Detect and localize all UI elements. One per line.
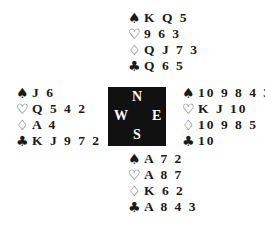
club-icon: ♣ [128,199,144,215]
north-clubs: ♣Q 6 5 [128,58,199,74]
west-spades: ♠J 6 [16,85,101,101]
compass-west: W [114,108,128,124]
spade-icon: ♠ [128,151,144,167]
spade-icon: ♠ [182,85,198,101]
compass-east: E [152,108,161,124]
spade-icon: ♠ [16,85,32,101]
east-clubs: ♣10 [182,133,265,149]
east-hearts: ♡K J 10 [182,101,265,117]
diamond-icon: ♢ [182,117,198,133]
north-hand: ♠K Q 5 ♡9 6 3 ♢Q J 7 3 ♣Q 6 5 [128,10,199,74]
south-clubs: ♣A 8 4 3 [128,199,197,215]
south-diamonds: ♢K 6 2 [128,183,197,199]
compass-north: N [132,89,142,105]
east-diamonds: ♢10 9 8 5 [182,117,265,133]
compass-south: S [133,127,141,143]
south-hand: ♠A 7 2 ♡A 8 7 ♢K 6 2 ♣A 8 4 3 [128,151,197,215]
club-icon: ♣ [182,133,198,149]
north-spades: ♠K Q 5 [128,10,199,26]
west-hearts: ♡Q 5 4 2 [16,101,101,117]
diamond-icon: ♢ [128,183,144,199]
west-hand: ♠J 6 ♡Q 5 4 2 ♢A 4 ♣K J 9 7 2 [16,85,101,149]
diamond-icon: ♢ [16,117,32,133]
heart-icon: ♡ [128,26,144,42]
diamond-icon: ♢ [128,42,144,58]
north-hearts: ♡9 6 3 [128,26,199,42]
heart-icon: ♡ [128,167,144,183]
compass-box: N W E S [108,87,166,146]
west-clubs: ♣K J 9 7 2 [16,133,101,149]
club-icon: ♣ [16,133,32,149]
club-icon: ♣ [128,58,144,74]
west-diamonds: ♢A 4 [16,117,101,133]
heart-icon: ♡ [182,101,198,117]
south-hearts: ♡A 8 7 [128,167,197,183]
heart-icon: ♡ [16,101,32,117]
north-diamonds: ♢Q J 7 3 [128,42,199,58]
east-spades: ♠10 9 8 4 3 [182,85,265,101]
east-hand: ♠10 9 8 4 3 ♡K J 10 ♢10 9 8 5 ♣10 [182,85,265,149]
spade-icon: ♠ [128,10,144,26]
south-spades: ♠A 7 2 [128,151,197,167]
